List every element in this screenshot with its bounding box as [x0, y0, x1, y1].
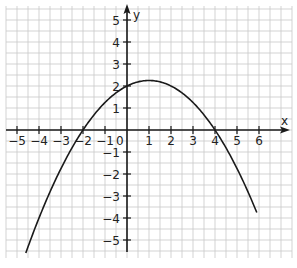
- parabola-curve: [26, 81, 257, 253]
- parabola-chart: −5−4−3−2−1123456 −5−4−3−2−112345 x y 0: [0, 0, 297, 268]
- x-tick-label: −5: [8, 134, 26, 148]
- y-tick-label: −2: [102, 168, 120, 182]
- y-tick-label: 3: [112, 58, 120, 72]
- y-tick-label: −5: [102, 234, 120, 248]
- x-tick-label: 1: [145, 134, 153, 148]
- x-tick-label: 3: [189, 134, 197, 148]
- x-tick-label: 6: [255, 134, 263, 148]
- y-tick-label: 4: [112, 36, 120, 50]
- x-axis-label: x: [281, 114, 288, 128]
- x-tick-label: −3: [52, 134, 70, 148]
- axes: [6, 4, 290, 252]
- x-tick-label: 2: [167, 134, 175, 148]
- y-axis-label: y: [133, 8, 140, 22]
- x-tick-label: 4: [211, 134, 219, 148]
- origin-label: 0: [116, 134, 124, 148]
- y-tick-label: 1: [112, 102, 120, 116]
- y-tick-label: 5: [112, 14, 120, 28]
- x-tick-label: 5: [233, 134, 241, 148]
- y-tick-label: −3: [102, 190, 120, 204]
- y-tick-label: −4: [102, 212, 120, 226]
- x-tick-label: −4: [30, 134, 48, 148]
